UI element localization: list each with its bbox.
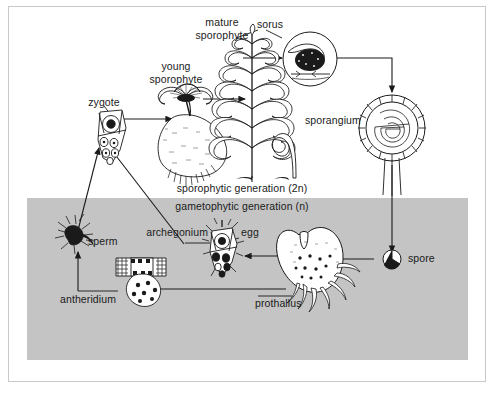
label-prothallus: prothallus	[255, 297, 302, 309]
label-zygote: zygote	[88, 96, 120, 108]
label-young-sporophyte-line2: sporophyte	[150, 73, 203, 85]
label-spore: spore	[408, 252, 435, 264]
illustration-layer	[0, 0, 496, 396]
label-sorus: sorus	[257, 18, 283, 30]
fern-life-cycle-diagram: mature sporophyte sorus young sporophyte…	[0, 0, 496, 396]
label-young-sporophyte-line1: young	[161, 60, 190, 72]
label-mature-sporophyte-line1: mature	[205, 16, 238, 28]
label-egg: egg	[241, 226, 259, 238]
sorus-illustration	[283, 32, 337, 86]
label-sporophytic-generation: sporophytic generation (2n)	[177, 182, 308, 194]
zygote-illustration	[98, 110, 126, 165]
label-mature-sporophyte-line2: sporophyte	[196, 29, 249, 41]
spore-illustration	[383, 250, 401, 269]
label-antheridium: antheridium	[60, 293, 116, 305]
label-sperm: sperm	[88, 235, 118, 247]
sporangium-illustration	[358, 95, 426, 196]
sperm-illustration	[55, 214, 94, 254]
mature-sporophyte-illustration	[209, 24, 296, 182]
label-sporangium: sporangium	[305, 114, 361, 126]
archegonium-illustration	[202, 218, 244, 277]
antheridium-illustration	[116, 258, 166, 306]
label-archegonium: archegonium	[146, 226, 208, 238]
label-gametophytic-generation: gametophytic generation (n)	[175, 200, 308, 212]
